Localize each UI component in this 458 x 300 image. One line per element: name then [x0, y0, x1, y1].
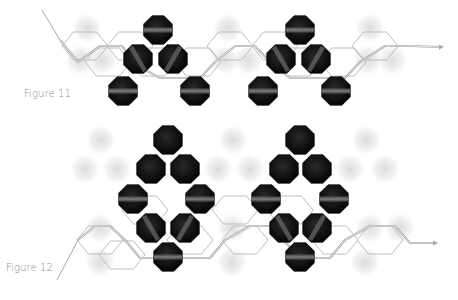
dark-ball [302, 45, 331, 74]
ball-body [171, 155, 200, 184]
dark-ball [286, 126, 315, 155]
ghost-ball [351, 125, 381, 155]
ball-body [303, 155, 332, 184]
ball-body [137, 155, 166, 184]
ghost-ball [370, 154, 400, 184]
dark-ball [154, 126, 183, 155]
dark-ball [124, 45, 153, 74]
dark-ball [137, 214, 166, 243]
dark-ball [270, 214, 299, 243]
dark-ball [303, 214, 332, 243]
dark-ball [154, 243, 183, 272]
ball-body [286, 126, 315, 155]
ghost-ball [213, 13, 243, 43]
dark-ball [171, 214, 200, 243]
ghost-ball [85, 247, 115, 277]
ghost-ball [355, 13, 385, 43]
dark-ball [303, 155, 332, 184]
dark-ball [109, 77, 138, 106]
ghost-ball [218, 125, 248, 155]
dark-ball [286, 243, 315, 272]
figure-11-label: Figure 11 [24, 88, 71, 99]
dark-ball [322, 77, 351, 106]
ball-body [154, 126, 183, 155]
ghost-ball [350, 247, 380, 277]
figure-canvas [0, 0, 458, 300]
dark-ball [320, 185, 349, 214]
ghost-ball [355, 213, 385, 243]
leader-line [57, 240, 78, 280]
ghost-balls-layer [65, 13, 415, 277]
ghost-ball [203, 154, 233, 184]
arrow-head-icon [439, 45, 444, 50]
ball-body [270, 155, 299, 184]
dark-ball [186, 185, 215, 214]
ghost-ball [335, 154, 365, 184]
dark-ball [119, 185, 148, 214]
arrow-head-icon [433, 241, 438, 246]
ghost-ball [235, 154, 265, 184]
dark-ball [267, 45, 296, 74]
dark-ball [252, 185, 281, 214]
ghost-ball [72, 13, 102, 43]
leader-line [42, 10, 60, 40]
dark-ball [249, 77, 278, 106]
dark-ball [144, 16, 173, 45]
dark-ball [286, 16, 315, 45]
ghost-ball [102, 154, 132, 184]
ghost-ball [385, 213, 415, 243]
dark-ball [159, 45, 188, 74]
figure-12-label: Figure 12 [6, 262, 53, 273]
dark-ball [137, 155, 166, 184]
dark-ball [171, 155, 200, 184]
ghost-ball [86, 125, 116, 155]
dark-ball [181, 77, 210, 106]
ghost-ball [85, 213, 115, 243]
dark-ball [270, 155, 299, 184]
ghost-ball [70, 154, 100, 184]
